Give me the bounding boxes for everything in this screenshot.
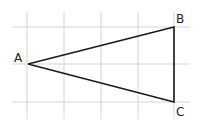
triangle-diagram: A B C: [0, 0, 199, 133]
vertex-label-a: A: [14, 51, 23, 65]
vertex-label-b: B: [176, 12, 184, 26]
grid: [12, 12, 190, 119]
vertex-label-c: C: [176, 105, 184, 119]
